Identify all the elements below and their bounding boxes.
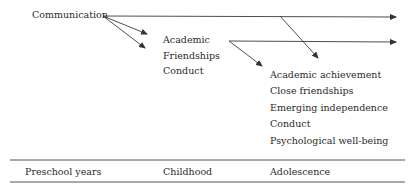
childhood-outcomes: Academic Friendships Conduct bbox=[163, 32, 220, 79]
childhood-outcome: Academic bbox=[163, 32, 220, 48]
adolescence-outcomes: Academic achievement Close friendships E… bbox=[270, 67, 388, 149]
arrow-communication-continuity bbox=[103, 16, 396, 17]
arrow-communication-to-academic bbox=[103, 16, 147, 34]
adolescence-outcome: Emerging independence bbox=[270, 100, 388, 116]
arrow-childhood-to-adolescence bbox=[229, 41, 262, 66]
adolescence-outcome: Conduct bbox=[270, 116, 388, 132]
arrow-childhood-continuity bbox=[229, 41, 396, 42]
timeline-preschool: Preschool years bbox=[25, 167, 101, 177]
timeline-adolescence: Adolescence bbox=[270, 167, 330, 177]
adolescence-outcome: Close friendships bbox=[270, 83, 388, 99]
source-node-communication: Communication bbox=[32, 10, 108, 20]
arrow-communication-to-adolescence bbox=[280, 16, 318, 58]
adolescence-outcome: Psychological well-being bbox=[270, 133, 388, 149]
arrow-communication-to-friendships bbox=[103, 16, 145, 48]
adolescence-outcome: Academic achievement bbox=[270, 67, 388, 83]
childhood-outcome: Friendships bbox=[163, 48, 220, 64]
childhood-outcome: Conduct bbox=[163, 63, 220, 79]
timeline-childhood: Childhood bbox=[163, 167, 212, 177]
